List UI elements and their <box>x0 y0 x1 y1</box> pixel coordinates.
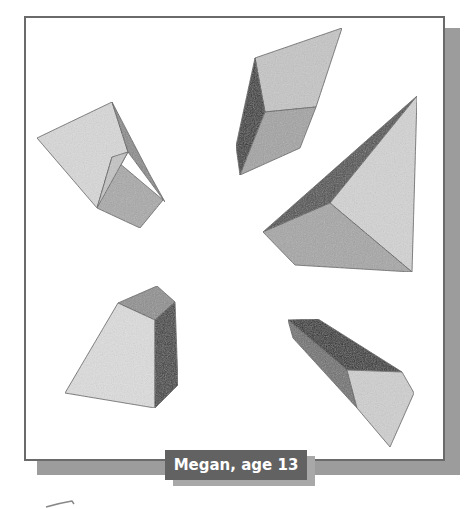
shape-frustum <box>65 286 178 408</box>
caption-label: Megan, age 13 <box>165 450 307 480</box>
page-curl-mark <box>40 495 80 509</box>
shape-folded-prism <box>37 102 165 228</box>
artwork-drawing <box>0 0 472 509</box>
caption-badge: Megan, age 13 <box>165 450 307 480</box>
shape-triangular-prism <box>236 28 342 175</box>
shape-pentagonal-prism <box>288 319 414 447</box>
